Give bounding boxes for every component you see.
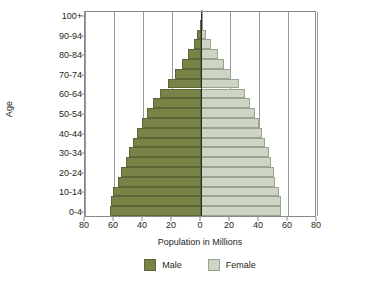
legend-swatch-female [208,259,220,271]
bar-female [201,147,269,157]
y-tick-label: 0-4 [69,207,82,217]
y-tick-label: 40-44 [59,129,82,139]
bar-male [137,128,201,138]
legend-item-female: Female [208,259,256,271]
legend-label-male: Male [162,260,182,270]
y-tick-label: 80-84 [59,50,82,60]
pyramid-row [85,138,315,148]
bar-male [160,89,201,99]
x-axis-tick-labels: 80604020020406080 [84,220,316,234]
bar-female [201,49,218,59]
pyramid-row [85,98,315,108]
pyramid-row [85,39,315,49]
pyramid-row [85,108,315,118]
bar-female [201,118,259,128]
x-tick-label: 0 [197,220,202,230]
bar-female [201,59,224,69]
y-tick-label: 70-74 [59,70,82,80]
bar-male [121,167,201,177]
bar-male [111,196,201,206]
bar-female [201,187,279,197]
bar-female [201,177,275,187]
pyramid-row [85,177,315,187]
bar-male [153,98,201,108]
plot-area [84,11,316,217]
x-tick-label: 80 [79,220,89,230]
y-tick-label: 30-34 [59,148,82,158]
pyramid-row [85,196,315,206]
bar-male [147,108,201,118]
pyramid-row [85,89,315,99]
bar-female [201,89,245,99]
pyramid-row [85,10,315,20]
bar-female [201,79,239,89]
x-tick-label: 40 [253,220,263,230]
y-tick-label: 20-24 [59,168,82,178]
bar-male [133,138,201,148]
bar-male [110,206,201,216]
bar-female [201,69,231,79]
center-axis-line [201,12,202,216]
y-tick-label: 50-54 [59,109,82,119]
bar-male [182,59,201,69]
bar-female [201,167,274,177]
y-axis-title: Age [4,86,14,132]
bar-female [201,108,255,118]
pyramid-row [85,157,315,167]
x-tick-label: 40 [137,220,147,230]
y-tick-label: 60-64 [59,89,82,99]
legend-label-female: Female [226,260,256,270]
bar-female [201,157,271,167]
bar-series-container [85,12,315,216]
x-tick-label: 20 [224,220,234,230]
x-tick-label: 80 [311,220,321,230]
y-tick-label: 90-94 [59,31,82,41]
pyramid-row [85,20,315,30]
pyramid-row [85,79,315,89]
pyramid-row [85,30,315,40]
bar-male [113,187,201,197]
bar-male [129,147,202,157]
legend-item-male: Male [144,259,182,271]
bar-female [201,138,265,148]
bar-male [188,49,201,59]
pyramid-row [85,206,315,216]
bar-female [201,196,281,206]
bar-male [175,69,201,79]
y-tick-label: 10-14 [59,187,82,197]
bar-female [201,39,211,49]
pyramid-row [85,69,315,79]
pyramid-row [85,59,315,69]
bar-male [142,118,201,128]
pyramid-row [85,187,315,197]
bar-female [201,128,262,138]
x-tick-label: 60 [108,220,118,230]
bar-male [118,177,201,187]
pyramid-row [85,167,315,177]
bar-male [168,79,201,89]
population-pyramid-figure: Age 0-410-1420-2430-3440-4450-5460-6470-… [0,0,374,284]
x-axis-title: Population in Millions [84,237,316,247]
bar-female [201,98,250,108]
x-tick-label: 20 [166,220,176,230]
y-tick-label: 100+ [62,11,82,21]
chart-legend: Male Female [84,259,316,271]
pyramid-row [85,128,315,138]
pyramid-row [85,118,315,128]
pyramid-row [85,147,315,157]
pyramid-row [85,49,315,59]
bar-male [126,157,201,167]
bar-male [194,39,201,49]
x-tick-label: 60 [282,220,292,230]
gridline [317,12,318,216]
legend-swatch-male [144,259,156,271]
bar-female [201,206,281,216]
